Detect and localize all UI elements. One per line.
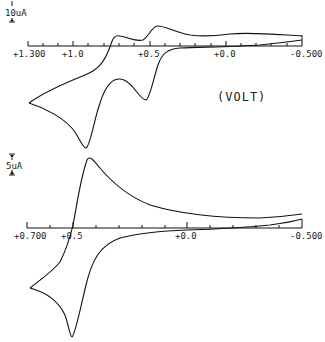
bottom-x-axis — [27, 219, 302, 228]
x-unit-label: (VOLT) — [217, 90, 266, 104]
top-chart: 10uA +1.300 +1.0 +0.5 +0.0 — [5, 1, 323, 148]
bottom-chart: 5uA +0.700 +0.5 +0.0 -0.500 — [6, 154, 323, 337]
bottom-tick-4: -0.500 — [290, 231, 323, 241]
bottom-scale-label: 5uA — [6, 161, 23, 171]
top-tick-2: +1.0 — [62, 49, 84, 59]
voltammogram-figure: 10uA +1.300 +1.0 +0.5 +0.0 — [0, 0, 325, 342]
bottom-tick-2: +0.5 — [61, 231, 83, 241]
bottom-tick-3: +0.0 — [175, 231, 197, 241]
top-tick-3: +0.5 — [138, 49, 160, 59]
bottom-tick-1: +0.700 — [14, 231, 47, 241]
top-x-axis — [28, 35, 302, 46]
top-tick-4: +0.0 — [214, 49, 236, 59]
top-scale-label: 10uA — [5, 8, 27, 18]
bottom-upper-curve — [30, 158, 302, 288]
top-tick-5: -0.500 — [290, 49, 323, 59]
top-tick-1: +1.300 — [13, 49, 46, 59]
